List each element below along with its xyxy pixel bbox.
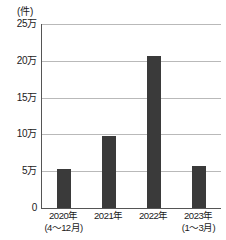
x-tick-label-2021: 2021年	[86, 210, 131, 240]
x-tick-label-2022-year: 2022年	[139, 210, 168, 221]
y-tick-label-0: 0	[1, 203, 37, 213]
gridline-20man	[41, 61, 221, 62]
plot-area	[41, 24, 221, 208]
x-tick-label-2021-year: 2021年	[94, 210, 123, 221]
gridline-15man	[41, 98, 221, 99]
bar-2020	[57, 169, 71, 208]
gridline-10man	[41, 134, 221, 135]
gridline-25man	[41, 24, 221, 25]
bar-2022	[147, 56, 161, 208]
y-axis-line	[41, 24, 42, 209]
x-tick-label-2020-period: (4〜12月)	[41, 222, 86, 234]
bar-2021	[102, 136, 116, 208]
x-tick-label-2023-period: (1〜3月)	[176, 222, 221, 234]
x-tick-label-2020-year: 2020年	[49, 210, 78, 221]
y-tick-label-20man: 20万	[1, 56, 37, 66]
bar-2023	[192, 166, 206, 208]
x-axis-tick-labels: 2020年 (4〜12月) 2021年 2022年 2023年 (1〜3月)	[41, 210, 221, 240]
x-axis-line	[41, 208, 221, 209]
y-axis-tick-labels: 25万 20万 15万 10万 5万 0	[0, 0, 37, 240]
y-tick-label-10man: 10万	[1, 129, 37, 139]
x-tick-label-2022: 2022年	[131, 210, 176, 240]
y-tick-label-15man: 15万	[1, 93, 37, 103]
x-tick-label-2020: 2020年 (4〜12月)	[41, 210, 86, 240]
y-tick-label-25man: 25万	[1, 19, 37, 29]
x-tick-label-2023: 2023年 (1〜3月)	[176, 210, 221, 240]
bar-chart: (件) 25万 20万 15万 10万 5万 0 2020年 (4〜12月) 2…	[0, 0, 226, 240]
y-tick-label-5man: 5万	[1, 166, 37, 176]
x-tick-label-2023-year: 2023年	[184, 210, 213, 221]
